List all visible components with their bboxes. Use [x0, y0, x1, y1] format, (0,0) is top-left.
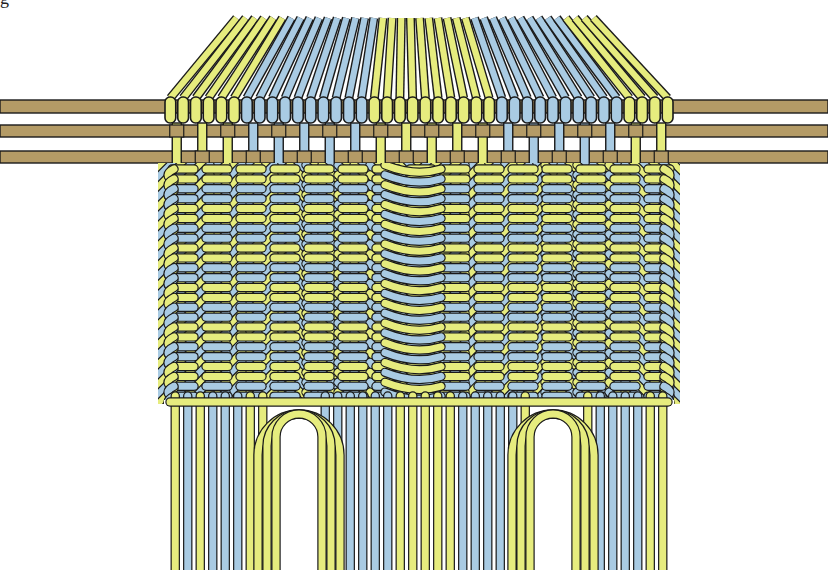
cord-fan-top — [170, 18, 667, 98]
rod-2 — [0, 125, 828, 137]
rod-3 — [0, 151, 828, 163]
fringe-strands — [164, 396, 674, 570]
macrame-diagram — [0, 0, 828, 570]
